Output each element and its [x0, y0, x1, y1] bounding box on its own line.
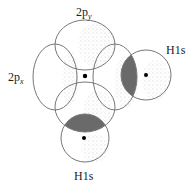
label-h1s-right: H1s [166, 43, 186, 57]
label-2py: 2py [76, 5, 92, 21]
h-bottom-nucleus [82, 136, 86, 140]
label-h1s-bottom: H1s [74, 169, 94, 183]
orbital-overlap-diagram: 2py 2px H1s H1s [0, 0, 195, 192]
label-2px: 2px [8, 70, 24, 86]
h-right-nucleus [144, 73, 148, 77]
central-nucleus [83, 74, 87, 78]
